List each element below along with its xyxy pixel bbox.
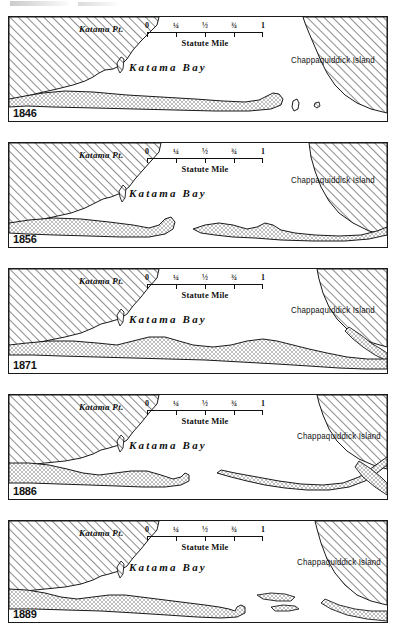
panel-year-1871: 1871 [13,359,37,371]
label-katama-bay: Katama Bay [129,61,207,73]
label-chappaquiddick-island: Chappaquiddick Island [291,55,375,65]
scale-tick-labels: 0 ¼ ½ ¾ 1 [147,525,263,535]
panel-year-1886: 1886 [13,485,37,497]
map-panel-1889[interactable]: Katama Pt. Katama Bay Chappaquiddick Isl… [8,520,388,623]
scale-tick-labels: 0 ¼ ½ ¾ 1 [147,399,263,409]
scale-bar-axis [147,284,263,290]
label-katama-bay: Katama Bay [129,187,207,199]
scale-bar: 0 ¼ ½ ¾ 1 Statute Mile [147,399,263,426]
scale-tick-labels: 0 ¼ ½ ¾ 1 [147,21,263,31]
map-panel-1886[interactable]: Katama Pt. Katama Bay Chappaquiddick Isl… [8,394,388,500]
scale-bar-axis [147,32,263,38]
scale-bar-axis [147,158,263,164]
label-katama-pt: Katama Pt. [79,276,124,286]
label-katama-pt: Katama Pt. [79,402,124,412]
label-katama-pt: Katama Pt. [79,24,124,34]
label-chappaquiddick-island: Chappaquiddick Island [291,305,375,315]
map-panel-1846[interactable]: Katama Pt. Katama Bay Chappaquiddick Isl… [8,16,388,122]
scale-bar: 0 ¼ ½ ¾ 1 Statute Mile [147,525,263,552]
scale-bar: 0 ¼ ½ ¾ 1 Statute Mile [147,273,263,300]
scale-bar: 0 ¼ ½ ¾ 1 Statute Mile [147,147,263,174]
map-panel-1871[interactable]: Katama Pt. Katama Bay Chappaquiddick Isl… [8,268,388,374]
label-chappaquiddick-island: Chappaquiddick Island [297,431,381,441]
label-chappaquiddick-island: Chappaquiddick Island [297,557,381,567]
scale-bar: 0 ¼ ½ ¾ 1 Statute Mile [147,21,263,48]
scale-bar-axis [147,410,263,416]
label-katama-bay: Katama Bay [129,313,207,325]
scale-caption: Statute Mile [147,38,263,48]
scale-caption: Statute Mile [147,542,263,552]
scan-artifact [10,1,68,6]
panel-year-1846: 1846 [13,107,37,119]
label-katama-pt: Katama Pt. [79,150,124,160]
scale-tick-labels: 0 ¼ ½ ¾ 1 [147,147,263,157]
scale-caption: Statute Mile [147,416,263,426]
scale-tick-labels: 0 ¼ ½ ¾ 1 [147,273,263,283]
map-panel-1856[interactable]: Katama Pt. Katama Bay Chappaquiddick Isl… [8,142,388,248]
panel-year-1856: 1856 [13,233,37,245]
label-katama-pt: Katama Pt. [79,528,124,538]
scale-caption: Statute Mile [147,290,263,300]
label-katama-bay: Katama Bay [129,561,207,573]
scan-artifact-2 [78,2,118,6]
scale-caption: Statute Mile [147,164,263,174]
katama-bay-map-series: Katama Pt. Katama Bay Chappaquiddick Isl… [0,0,396,631]
label-chappaquiddick-island: Chappaquiddick Island [291,175,375,185]
scale-bar-axis [147,536,263,542]
label-katama-bay: Katama Bay [129,439,207,451]
panel-year-1889: 1889 [13,608,37,620]
